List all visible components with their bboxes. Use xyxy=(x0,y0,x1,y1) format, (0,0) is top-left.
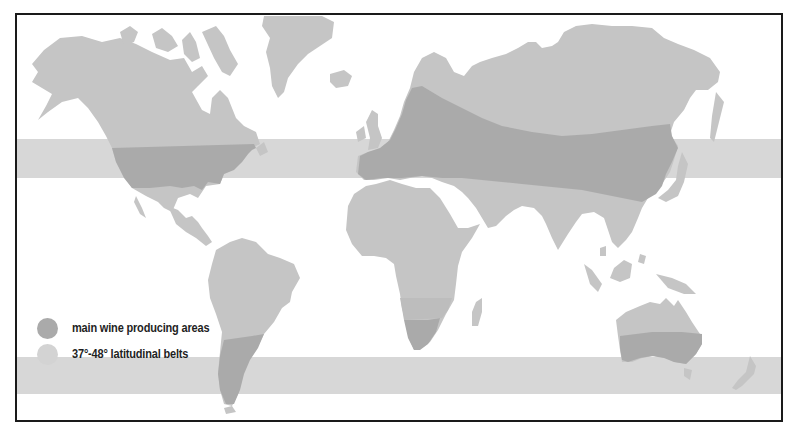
kamchatka xyxy=(710,92,724,142)
wine-area-north-america xyxy=(112,144,256,190)
legend-item-latitudinal-belts: 37°-48° latitudinal belts xyxy=(37,341,228,367)
baja-california xyxy=(134,196,146,218)
madagascar xyxy=(472,298,482,326)
map-legend: main wine producing areas 37°-48° latitu… xyxy=(37,315,228,367)
map-frame: main wine producing areas 37°-48° latitu… xyxy=(15,13,783,422)
central-america xyxy=(168,206,212,246)
belt-swatch-icon xyxy=(37,344,58,365)
wine-area-swatch-icon xyxy=(37,318,58,339)
tierra-del-fuego xyxy=(224,406,236,414)
wine-area-south-africa xyxy=(404,318,440,350)
sri-lanka xyxy=(600,246,606,256)
legend-item-wine-areas: main wine producing areas xyxy=(37,315,228,341)
greenland xyxy=(262,16,334,98)
legend-label: main wine producing areas xyxy=(72,321,209,335)
borneo xyxy=(610,260,632,282)
legend-label: 37°-48° latitudinal belts xyxy=(72,347,188,361)
sumatra xyxy=(584,264,602,292)
iceland xyxy=(330,70,352,88)
new-guinea xyxy=(656,274,696,294)
philippines xyxy=(638,254,646,264)
